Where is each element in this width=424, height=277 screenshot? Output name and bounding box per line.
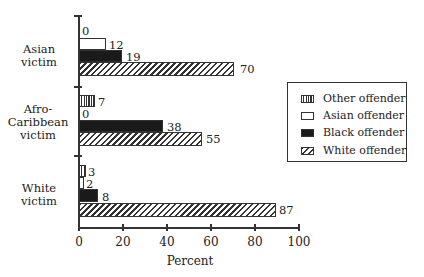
legend-item-black-offender: Black offender <box>301 126 404 139</box>
value-label: 70 <box>240 63 255 75</box>
group-label-white-victim: White victim <box>9 182 69 208</box>
legend-item-other-offender: Other offender <box>301 92 406 105</box>
x-tick-label: 60 <box>203 235 218 249</box>
value-label: 87 <box>279 204 294 216</box>
legend-label: White offender <box>323 144 406 157</box>
x-tick-label: 0 <box>75 235 83 249</box>
group-label-afro-caribbean-victim: Afro- Caribbean victim <box>3 103 73 142</box>
x-axis-tick <box>298 224 300 231</box>
legend-item-white-offender: White offender <box>301 144 406 157</box>
legend-label: Black offender <box>323 126 404 139</box>
bar-afro-victim-white-offender <box>79 132 202 146</box>
value-label: 0 <box>82 25 89 37</box>
y-axis-tick <box>74 15 82 17</box>
x-axis-tick <box>210 224 212 231</box>
value-label: 55 <box>206 133 221 145</box>
legend: Other offender Asian offender Black offe… <box>287 82 407 162</box>
legend-item-asian-offender: Asian offender <box>301 109 404 122</box>
black-swatch-icon <box>301 129 314 137</box>
label-line: victim <box>3 129 73 142</box>
bar-asian-victim-black-offender <box>79 50 122 62</box>
bar-afro-victim-other-offender <box>79 95 95 107</box>
group-label-asian-victim: Asian victim <box>9 43 69 69</box>
hatch-swatch-icon <box>301 147 314 155</box>
white-swatch-icon <box>301 112 314 120</box>
vertical-lines-swatch-icon <box>301 95 314 103</box>
x-tick-label: 40 <box>159 235 174 249</box>
bar-white-victim-white-offender <box>79 203 276 217</box>
bar-asian-victim-white-offender <box>79 62 234 76</box>
label-line: victim <box>9 195 69 208</box>
x-axis <box>78 227 300 229</box>
legend-label: Asian offender <box>323 109 404 122</box>
value-label: 7 <box>98 96 105 108</box>
bar-white-victim-other-offender <box>79 165 86 177</box>
value-label: 8 <box>102 191 109 203</box>
bar-asian-victim-asian-offender <box>79 38 106 50</box>
y-axis-tick <box>74 86 82 88</box>
x-tick-label: 20 <box>115 235 130 249</box>
x-tick-label: 100 <box>288 235 311 249</box>
legend-label: Other offender <box>323 92 406 105</box>
x-axis-tick <box>166 224 168 231</box>
x-axis-tick <box>122 224 124 231</box>
label-line: victim <box>9 56 69 69</box>
x-axis-tick <box>254 224 256 231</box>
x-axis-tick <box>78 224 80 231</box>
x-tick-label: 80 <box>247 235 262 249</box>
bar-white-victim-black-offender <box>79 189 98 202</box>
bar-white-victim-asian-offender <box>79 177 84 189</box>
bar-afro-victim-black-offender <box>79 120 163 132</box>
value-label: 0 <box>82 108 89 120</box>
x-axis-title: Percent <box>167 254 214 268</box>
y-axis-tick <box>74 155 82 157</box>
